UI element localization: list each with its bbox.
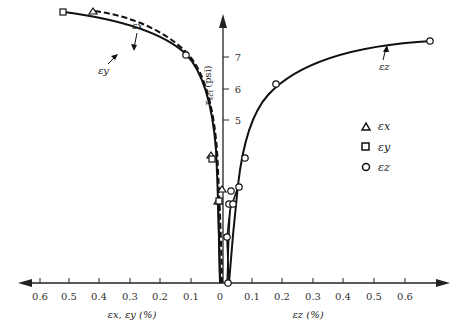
tick-label: 0.2 bbox=[152, 291, 168, 302]
x-axis-label-right: εz (%) bbox=[292, 309, 323, 320]
tick-label: 0.4 bbox=[335, 291, 351, 302]
tick-label: 0.1 bbox=[183, 291, 199, 302]
tick-label: 0.2 bbox=[274, 291, 290, 302]
tick-label: 0.6 bbox=[397, 291, 413, 302]
tick-label: 0.4 bbox=[91, 291, 107, 302]
series-ex-curve bbox=[95, 11, 222, 283]
strain-stress-chart: 0.6 0.5 0.4 0.3 0.2 0.1 0 0.1 0.2 0.3 0.… bbox=[0, 0, 454, 328]
tick-label: 0.5 bbox=[61, 291, 77, 302]
tick-label: 0.6 bbox=[32, 291, 48, 302]
legend-label-ez: εz bbox=[378, 161, 390, 174]
tick-label: 0.1 bbox=[244, 291, 260, 302]
series-ex-lower bbox=[218, 200, 220, 283]
annotation-ey-arrowhead bbox=[111, 54, 118, 60]
series-ey-curve bbox=[64, 12, 220, 283]
annotation-ex-arrowhead bbox=[131, 44, 137, 51]
y-tick-label: 7 bbox=[235, 52, 241, 63]
legend-label-ex: εx bbox=[378, 120, 391, 133]
y-ticks bbox=[223, 57, 229, 120]
legend-circle-icon bbox=[363, 164, 370, 171]
legend-square-icon bbox=[362, 143, 369, 150]
x-axis-right-arrow bbox=[436, 279, 450, 287]
y-tick-label: 6 bbox=[235, 84, 241, 95]
y-axis-arrow bbox=[219, 14, 227, 28]
annotation-ez: εz bbox=[379, 61, 390, 72]
x-ticks-left bbox=[40, 278, 191, 283]
x-axis-label-left: εx, εy (%) bbox=[108, 309, 157, 320]
tick-label: 0.3 bbox=[122, 291, 138, 302]
y-tick-label: 5 bbox=[235, 115, 241, 126]
markers-ez bbox=[183, 38, 433, 286]
markers-ey bbox=[60, 9, 222, 204]
series-ez-curve bbox=[229, 41, 432, 283]
x-ticks-right bbox=[252, 278, 405, 283]
tick-label: 0.3 bbox=[305, 291, 321, 302]
annotation-ex: εx bbox=[132, 20, 143, 31]
legend-label-ey: εy bbox=[378, 141, 391, 154]
legend-triangle-icon bbox=[362, 123, 370, 130]
legend: εx εy εz bbox=[362, 120, 391, 174]
tick-label: 0.5 bbox=[366, 291, 382, 302]
x-axis-left-arrow bbox=[18, 279, 32, 287]
tick-label: 0 bbox=[217, 291, 223, 302]
annotation-ey: εy bbox=[98, 65, 109, 76]
